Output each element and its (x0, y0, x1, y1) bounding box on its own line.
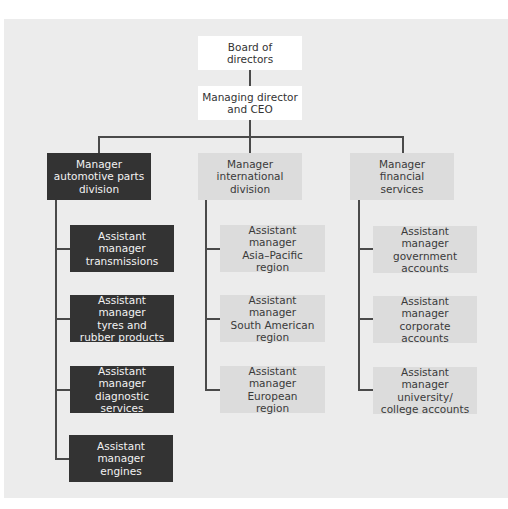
branch (55, 248, 70, 250)
branch (205, 389, 220, 391)
connector-horizontal-bus (98, 136, 404, 138)
node-label: Assistant manager corporate accounts (377, 295, 473, 345)
branch (55, 458, 70, 460)
node-label: Assistant manager Asia–Pacific region (224, 224, 321, 274)
asst-tyres-box: Assistant manager tyres and rubber produ… (70, 295, 174, 342)
financial-tree-trunk (358, 200, 360, 390)
asst-diagnostic-box: Assistant manager diagnostic services (70, 366, 174, 413)
branch (205, 318, 220, 320)
node-label: Assistant manager South American region (224, 294, 321, 344)
asst-european-box: Assistant manager European region (220, 366, 325, 413)
node-label: Managing director and CEO (202, 91, 298, 116)
node-label: Assistant manager diagnostic services (74, 365, 170, 415)
node-label: Board of directors (227, 41, 273, 66)
managing-director-box: Managing director and CEO (198, 86, 302, 120)
connector-board-md (249, 70, 251, 86)
asst-university-box: Assistant manager university/ college ac… (373, 367, 477, 414)
branch (358, 248, 373, 250)
node-label: Assistant manager university/ college ac… (377, 366, 473, 416)
connector-to-automotive (98, 136, 100, 153)
asst-engines-box: Assistant manager engines (69, 435, 173, 482)
automotive-division-box: Manager automotive parts division (47, 153, 151, 200)
asst-transmissions-box: Assistant manager transmissions (70, 225, 174, 272)
node-label: Assistant manager tyres and rubber produ… (74, 294, 170, 344)
branch (55, 318, 70, 320)
node-label: Assistant manager engines (97, 440, 145, 478)
node-label: Manager international division (217, 158, 284, 196)
node-label: Manager automotive parts division (54, 158, 144, 196)
asst-government-box: Assistant manager government accounts (373, 226, 477, 273)
node-label: Assistant manager transmissions (86, 230, 159, 268)
branch (55, 389, 70, 391)
automotive-tree-trunk (55, 200, 57, 459)
board-of-directors-box: Board of directors (198, 36, 302, 70)
asst-asia-pacific-box: Assistant manager Asia–Pacific region (220, 225, 325, 272)
connector-md-bus (249, 120, 251, 137)
asst-south-american-box: Assistant manager South American region (220, 295, 325, 342)
financial-services-box: Manager financial services (350, 153, 454, 200)
connector-to-international (249, 136, 251, 153)
international-tree-trunk (205, 200, 207, 390)
node-label: Assistant manager European region (224, 365, 321, 415)
connector-to-financial (402, 136, 404, 153)
branch (358, 318, 373, 320)
branch (358, 389, 373, 391)
node-label: Assistant manager government accounts (377, 225, 473, 275)
international-division-box: Manager international division (198, 153, 302, 200)
asst-corporate-box: Assistant manager corporate accounts (373, 296, 477, 343)
node-label: Manager financial services (379, 158, 425, 196)
branch (205, 248, 220, 250)
